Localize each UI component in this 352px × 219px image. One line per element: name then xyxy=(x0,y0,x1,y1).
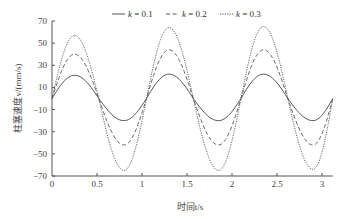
legend-label: k = 0.1 xyxy=(128,9,153,19)
legend-label: k = 0.2 xyxy=(182,9,207,19)
x-tick-label: 1.5 xyxy=(181,179,193,189)
y-axis-title: 柱塞速度v/(mm/s) xyxy=(12,63,23,132)
x-tick-label: 0 xyxy=(50,179,55,189)
series-line-1 xyxy=(52,74,333,121)
y-tick-label: −70 xyxy=(33,171,48,181)
series-line-3 xyxy=(52,27,333,171)
y-tick-label: −10 xyxy=(33,105,48,115)
x-tick-label: 2 xyxy=(230,179,235,189)
y-tick-label: 70 xyxy=(38,16,48,26)
y-tick-label: −30 xyxy=(33,127,48,137)
line-chart: 00.511.522.53−70−50−30−1010305070 k = 0.… xyxy=(0,0,352,219)
y-tick-label: −50 xyxy=(33,149,48,159)
x-tick-label: 0.5 xyxy=(91,179,103,189)
legend-label: k = 0.3 xyxy=(236,9,261,19)
y-tick-label: 50 xyxy=(38,38,48,48)
y-tick-label: 10 xyxy=(38,82,48,92)
plot-lines xyxy=(52,27,333,171)
legend: k = 0.1k = 0.2k = 0.3 xyxy=(112,9,261,19)
axes: 00.511.522.53−70−50−30−1010305070 xyxy=(33,16,333,189)
x-tick-label: 1 xyxy=(140,179,145,189)
x-tick-label: 3 xyxy=(320,179,325,189)
x-axis-title: 时间t/s xyxy=(177,201,204,212)
x-tick-label: 2.5 xyxy=(271,179,283,189)
y-tick-label: 30 xyxy=(38,60,48,70)
